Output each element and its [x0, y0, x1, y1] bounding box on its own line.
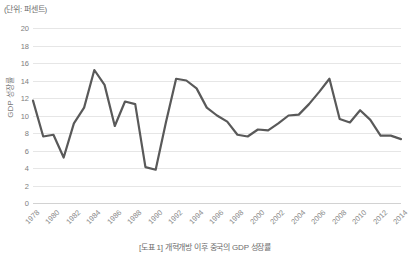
- gdp-growth-chart-figure: (단위: 퍼센트) GDP 성장률 20181614121086420 1978…: [0, 0, 410, 254]
- y-axis-tick-label: 2: [25, 181, 29, 190]
- figure-caption: [도표 1] 개혁개방 이후 중국의 GDP 성장률: [0, 241, 410, 252]
- x-axis-line: [33, 203, 401, 204]
- plot-area: [33, 28, 401, 203]
- series-polyline: [33, 70, 401, 170]
- y-axis-tick-label: 16: [21, 59, 29, 68]
- y-axis-tick-label: 20: [21, 24, 29, 33]
- y-axis-tick-label: 6: [25, 146, 29, 155]
- unit-note: (단위: 퍼센트): [4, 3, 47, 14]
- x-axis-tick-labels: 1978198019821984198619881990199219941996…: [33, 205, 401, 245]
- y-axis-tick-label: 8: [25, 129, 29, 138]
- y-axis-tick-label: 14: [21, 76, 29, 85]
- gdp-growth-line-series: [33, 28, 401, 203]
- y-axis-tick-label: 18: [21, 41, 29, 50]
- y-axis-tick-label: 10: [21, 111, 29, 120]
- y-axis-tick-label: 4: [25, 164, 29, 173]
- y-axis-tick-label: 0: [25, 199, 29, 208]
- y-axis-tick-labels: 20181614121086420: [0, 28, 33, 203]
- y-axis-tick-label: 12: [21, 94, 29, 103]
